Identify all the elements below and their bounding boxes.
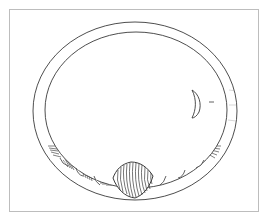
cross-section-icon xyxy=(192,90,200,118)
ring-shading xyxy=(228,60,237,121)
central-bead xyxy=(113,162,153,198)
ring-drawing xyxy=(0,0,268,223)
ring-ribbing-left xyxy=(48,146,111,186)
